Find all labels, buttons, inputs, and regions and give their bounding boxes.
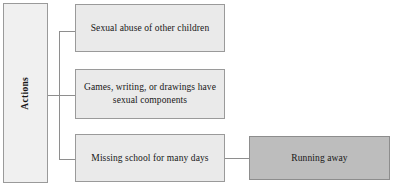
node-label: Missing school for many days bbox=[91, 152, 208, 165]
flowchart-diagram: Actions Sexual abuse of other children G… bbox=[0, 0, 397, 191]
node-sexual-abuse-of-other-children[interactable]: Sexual abuse of other children bbox=[75, 4, 225, 52]
connector-actions-trunk bbox=[47, 95, 60, 96]
connector-branch-3 bbox=[59, 159, 76, 160]
node-games-writing-drawings-sexual[interactable]: Games, writing, or drawings have sexual … bbox=[75, 69, 225, 119]
node-label: Sexual abuse of other children bbox=[91, 22, 210, 35]
node-missing-school-many-days[interactable]: Missing school for many days bbox=[75, 134, 225, 182]
connector-to-running-away bbox=[224, 158, 250, 159]
node-label: Games, writing, or drawings have sexual … bbox=[82, 81, 218, 106]
node-actions-label: Actions bbox=[19, 77, 32, 110]
node-label: Running away bbox=[291, 152, 347, 165]
connector-branch-2 bbox=[59, 95, 76, 96]
connector-branch-1 bbox=[59, 31, 76, 32]
node-running-away[interactable]: Running away bbox=[249, 136, 390, 180]
node-actions[interactable]: Actions bbox=[3, 3, 48, 183]
connector-vertical-trunk bbox=[59, 31, 60, 160]
